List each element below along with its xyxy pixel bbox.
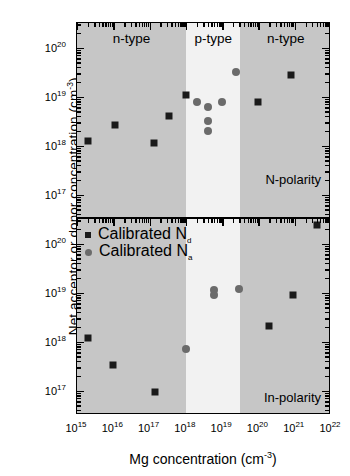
x-tick-minor-bottom bbox=[250, 23, 251, 27]
x-tick-minor-bottom bbox=[284, 23, 285, 27]
y-tick-base: 10 bbox=[45, 286, 57, 298]
x-tick-minor-bottom bbox=[131, 23, 132, 27]
y-tick-minor-right bbox=[325, 205, 329, 206]
x-tick-minor-bottom bbox=[142, 219, 143, 223]
x-tick-minor-bottom bbox=[248, 23, 249, 27]
y-tick-minor-right bbox=[325, 318, 329, 319]
y-tick-minor-right bbox=[325, 376, 329, 377]
y-tick-major bbox=[77, 244, 84, 245]
x-tick-exponent: 18 bbox=[187, 420, 196, 429]
y-tick-minor bbox=[77, 180, 81, 181]
data-point-nd bbox=[150, 140, 157, 147]
y-tick-base: 10 bbox=[45, 188, 57, 200]
y-tick-minor bbox=[77, 346, 81, 347]
y-tick-minor bbox=[77, 52, 81, 53]
x-tick-minor-bottom bbox=[329, 23, 330, 27]
data-point-nd bbox=[111, 122, 118, 129]
y-tick-minor-right bbox=[325, 104, 329, 105]
y-tick-minor-right bbox=[325, 258, 329, 259]
y-tick-minor-right bbox=[325, 165, 329, 166]
y-tick-minor bbox=[77, 209, 81, 210]
x-tick-minor-bottom bbox=[105, 219, 106, 223]
y-tick-base: 10 bbox=[45, 41, 57, 53]
y-tick-minor-right bbox=[325, 352, 329, 353]
x-tick-minor-bottom bbox=[284, 219, 285, 223]
x-tick-minor-bottom bbox=[99, 23, 100, 27]
x-tick-minor-top bbox=[329, 219, 330, 223]
x-tick-base: 10 bbox=[319, 422, 331, 434]
y-tick-major-right bbox=[322, 293, 329, 294]
y-tick-minor bbox=[77, 356, 81, 357]
x-tick-label: 1018 bbox=[174, 420, 195, 434]
y-tick-minor-right bbox=[325, 349, 329, 350]
y-tick-major bbox=[77, 146, 84, 147]
y-tick-minor bbox=[77, 131, 81, 132]
y-tick-minor bbox=[77, 361, 81, 362]
data-point-nd bbox=[151, 388, 158, 395]
data-point-na bbox=[210, 286, 218, 294]
y-tick-minor-right bbox=[325, 116, 329, 117]
x-tick-major-bottom bbox=[222, 23, 223, 30]
x-tick-minor-bottom bbox=[287, 23, 288, 27]
y-tick-minor-right bbox=[325, 307, 329, 308]
y-tick-minor bbox=[77, 398, 81, 399]
y-tick-minor-right bbox=[325, 122, 329, 123]
x-tick-base: 10 bbox=[138, 422, 150, 434]
y-tick-minor-right bbox=[325, 254, 329, 255]
y-tick-minor-right bbox=[325, 269, 329, 270]
x-tick-minor-bottom bbox=[320, 219, 321, 223]
x-tick-label: 1016 bbox=[102, 420, 123, 434]
y-tick-minor bbox=[77, 99, 81, 100]
y-tick-minor-right bbox=[325, 50, 329, 51]
x-tick-major-bottom bbox=[295, 219, 296, 226]
polarity-label: N-polarity bbox=[265, 172, 321, 187]
data-point-nd bbox=[290, 291, 297, 298]
y-tick-minor bbox=[77, 165, 81, 166]
y-tick-minor-right bbox=[325, 62, 329, 63]
x-tick-major-bottom bbox=[113, 23, 114, 30]
x-tick-minor-bottom bbox=[178, 23, 179, 27]
data-point-nd bbox=[255, 98, 262, 105]
y-tick-major bbox=[77, 195, 84, 196]
x-tick-minor-bottom bbox=[248, 219, 249, 223]
x-tick-minor-bottom bbox=[214, 219, 215, 223]
y-tick-minor-right bbox=[325, 33, 329, 34]
data-point-nd bbox=[166, 112, 173, 119]
y-tick-minor-right bbox=[325, 156, 329, 157]
y-tick-minor-right bbox=[325, 246, 329, 247]
x-tick-minor-bottom bbox=[211, 23, 212, 27]
y-tick-minor-right bbox=[325, 171, 329, 172]
x-tick-minor-bottom bbox=[171, 23, 172, 27]
y-axis-title-exponent: -3 bbox=[65, 82, 75, 90]
x-tick-minor-bottom bbox=[320, 23, 321, 27]
data-point-na bbox=[232, 68, 240, 76]
data-point-na bbox=[182, 345, 190, 353]
y-tick-exponent: 18 bbox=[57, 334, 66, 343]
x-tick-minor-bottom bbox=[142, 23, 143, 27]
y-tick-minor-right bbox=[325, 131, 329, 132]
y-tick-exponent: 19 bbox=[57, 285, 66, 294]
x-tick-base: 10 bbox=[102, 422, 114, 434]
y-tick-minor-right bbox=[325, 312, 329, 313]
y-tick-minor bbox=[77, 197, 81, 198]
y-tick-minor bbox=[77, 393, 81, 394]
x-tick-exponent: 22 bbox=[332, 420, 341, 429]
x-tick-minor-bottom bbox=[306, 23, 307, 27]
y-tick-base: 10 bbox=[45, 237, 57, 249]
y-tick-minor bbox=[77, 67, 81, 68]
y-tick-minor bbox=[77, 405, 81, 406]
region-label-n-type: n-type bbox=[113, 31, 151, 46]
y-tick-minor bbox=[77, 258, 81, 259]
y-tick-minor bbox=[77, 229, 81, 230]
x-tick-base: 10 bbox=[247, 422, 259, 434]
x-tick-minor-bottom bbox=[239, 23, 240, 27]
y-tick-minor bbox=[77, 116, 81, 117]
x-tick-minor-top bbox=[329, 23, 330, 27]
x-tick-minor-bottom bbox=[269, 219, 270, 223]
x-tick-label: 1020 bbox=[247, 420, 268, 434]
x-tick-minor-bottom bbox=[317, 219, 318, 223]
x-tick-minor-bottom bbox=[203, 219, 204, 223]
x-tick-minor-bottom bbox=[276, 23, 277, 27]
y-tick-minor bbox=[77, 73, 81, 74]
y-tick-minor-right bbox=[325, 300, 329, 301]
